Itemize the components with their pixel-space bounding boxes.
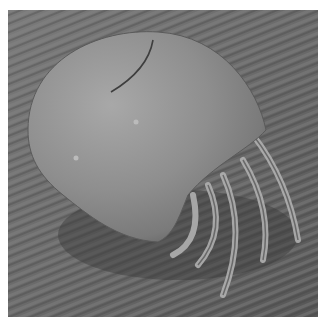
sem-photo-mite: [8, 10, 318, 317]
mite-illustration: [8, 10, 318, 317]
